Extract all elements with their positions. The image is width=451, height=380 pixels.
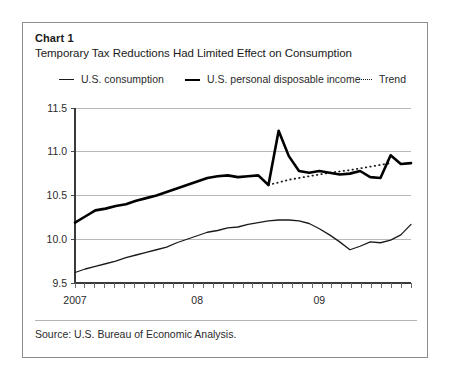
source-note: Source: U.S. Bureau of Economic Analysis… <box>35 328 236 340</box>
x-tick-label: 2007 <box>63 294 87 306</box>
x-tick-label: 09 <box>314 294 326 306</box>
series-line-disposable-income <box>75 131 411 223</box>
legend-swatch-dotted-line-icon <box>357 73 372 85</box>
line-chart-svg: 9.510.010.511.011.520070809 <box>33 99 419 309</box>
x-tick-label: 08 <box>191 294 203 306</box>
legend-item-consumption: U.S. consumption <box>59 71 164 87</box>
legend-swatch-thick-line-icon <box>185 73 200 85</box>
chart-legend: U.S. consumption U.S. personal disposabl… <box>35 71 417 87</box>
chart-title: Temporary Tax Reductions Had Limited Eff… <box>35 47 352 59</box>
y-tick-label: 10.0 <box>47 233 68 245</box>
series-line-consumption <box>75 220 411 273</box>
y-tick-label: 11.5 <box>47 102 67 114</box>
chart-card: Chart 1 Temporary Tax Reductions Had Lim… <box>22 22 428 358</box>
y-tick-label: 9.5 <box>52 277 67 289</box>
legend-item-trend: Trend <box>357 71 406 87</box>
legend-label-trend: Trend <box>379 73 406 85</box>
y-tick-label: 11.0 <box>47 145 67 157</box>
source-separator <box>35 320 417 321</box>
chart-plot-area: 9.510.010.511.011.520070809 <box>33 99 419 309</box>
legend-label-consumption: U.S. consumption <box>81 73 164 85</box>
chart-number-label: Chart 1 <box>35 32 74 44</box>
y-tick-label: 10.5 <box>47 189 68 201</box>
legend-label-disposable-income: U.S. personal disposable income <box>207 73 361 85</box>
legend-swatch-line-icon <box>59 73 74 85</box>
legend-item-disposable-income: U.S. personal disposable income <box>185 71 361 87</box>
